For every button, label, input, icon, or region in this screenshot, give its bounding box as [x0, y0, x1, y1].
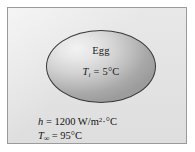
tinf-unit: °C	[71, 130, 82, 141]
annotation-block: h = 1200 W/m2·°C T∞ = 95°C	[38, 113, 117, 147]
h-unit-main: W/m	[75, 116, 98, 127]
figure-container: Egg Ti = 5°C h = 1200 W/m2·°C T∞ = 95°C	[0, 0, 195, 152]
tinf-value: 95	[60, 130, 71, 141]
egg-body-label: Egg	[47, 45, 155, 56]
egg-ellipse: Egg Ti = 5°C	[46, 30, 156, 103]
figure-panel: Egg Ti = 5°C h = 1200 W/m2·°C T∞ = 95°C	[7, 7, 187, 144]
h-equals: =	[43, 116, 54, 127]
egg-initial-temperature-label: Ti = 5°C	[47, 66, 155, 79]
ambient-temperature-formula: T∞ = 95°C	[38, 129, 117, 146]
tinf-equals: =	[49, 130, 60, 141]
initial-temp-equals: =	[91, 66, 103, 77]
h-unit-tail: ·°C	[102, 116, 117, 127]
h-value: 1200	[54, 116, 75, 127]
initial-temp-unit: °C	[108, 66, 120, 77]
convection-coefficient-formula: h = 1200 W/m2·°C	[38, 113, 117, 129]
